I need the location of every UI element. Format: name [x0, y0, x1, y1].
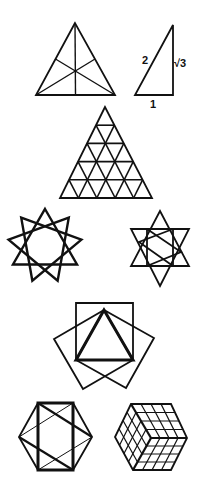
isometric-cube-figure	[115, 404, 187, 470]
hexagram-figure	[131, 211, 189, 286]
hypotenuse-label: 2	[142, 54, 148, 66]
nine-pointed-star-figure	[9, 209, 82, 281]
short-leg-label: 1	[150, 98, 156, 110]
triangle-medians-figure	[36, 23, 115, 95]
triangle-with-squares-figure	[54, 303, 154, 389]
hexagon-rectangle-figure	[19, 403, 92, 470]
geometry-figures-canvas: 2 √3 1	[0, 0, 200, 504]
triangular-grid-figure	[60, 107, 152, 198]
right-triangle-figure: 2 √3 1	[135, 25, 186, 110]
long-leg-label: √3	[174, 57, 186, 69]
